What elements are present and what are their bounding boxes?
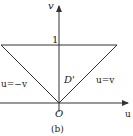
u-axis-label: u: [125, 109, 131, 119]
origin-label: O: [55, 108, 63, 119]
v-axis-label: v: [48, 0, 54, 11]
left-line-label: u=−v: [1, 79, 28, 89]
right-line-label: u=v: [96, 75, 115, 85]
figure-caption: (b): [51, 124, 64, 134]
diagram-canvas: v 1 D' u=−v u=v O u (b): [0, 0, 133, 136]
region-label: D': [63, 74, 75, 85]
line-u-equals-minus-v: [1, 45, 59, 103]
v-tick-label: 1: [52, 34, 58, 45]
